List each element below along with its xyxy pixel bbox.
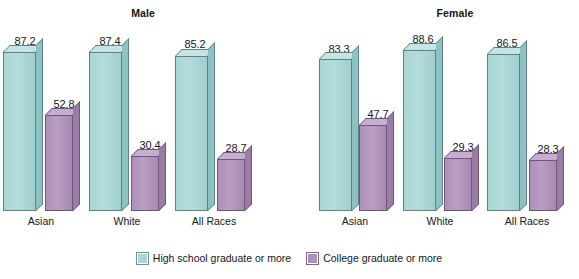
bar-face-side [122,38,129,211]
category-label-female-asian: Asian [322,215,388,227]
bar-male-asian-hs [3,52,36,211]
bar-face-side [520,40,527,211]
bar-face-front [45,115,73,211]
bar-face-front [359,125,387,211]
legend-item-high-school: High school graduate or more [137,252,291,264]
category-label-female-allraces: All Races [489,215,565,227]
legend-label-high-school: High school graduate or more [153,252,291,264]
bar-face-side [159,142,166,211]
bar-face-front [319,59,352,211]
bar-female-allraces-college [529,160,557,211]
grouped-bar-chart: Male 87.2 52.8 Asian 87.4 30.4 White 85.… [0,0,579,279]
bar-face-front [444,158,472,211]
bar-female-white-college [444,158,472,211]
bar-face-side [436,36,443,211]
bar-face-front [175,56,208,211]
bar-face-front [3,52,36,211]
bar-female-asian-hs [319,59,352,211]
bar-male-white-hs [89,52,122,211]
category-label-female-white: White [407,215,473,227]
bar-male-allraces-hs [175,56,208,211]
legend-swatch-teal-icon [137,253,148,264]
bar-face-side [208,42,215,211]
category-label-male-asian: Asian [8,215,74,227]
bar-face-side [557,146,564,211]
chart-legend: High school graduate or more College gra… [0,252,579,264]
bar-face-front [89,52,122,211]
legend-label-college: College graduate or more [323,252,442,264]
bar-face-side [73,101,80,211]
bar-female-allraces-hs [487,54,520,211]
panel-title-female: Female [405,7,505,19]
bar-face-front [529,160,557,211]
bar-face-side [472,144,479,211]
panel-title-male: Male [93,7,193,19]
legend-swatch-purple-icon [307,253,318,264]
category-label-male-white: White [94,215,160,227]
bar-face-front [217,159,245,211]
bar-face-side [245,145,252,211]
bar-face-side [387,111,394,211]
bar-female-white-hs [403,50,436,211]
bar-face-side [352,45,359,211]
bar-face-front [131,156,159,211]
bar-female-asian-college [359,125,387,211]
category-label-male-allraces: All Races [176,215,252,227]
bar-male-allraces-college [217,159,245,211]
bar-male-asian-college [45,115,73,211]
bar-face-front [403,50,436,211]
bar-face-front [487,54,520,211]
legend-item-college: College graduate or more [307,252,442,264]
bar-male-white-college [131,156,159,211]
bar-face-side [36,38,43,211]
